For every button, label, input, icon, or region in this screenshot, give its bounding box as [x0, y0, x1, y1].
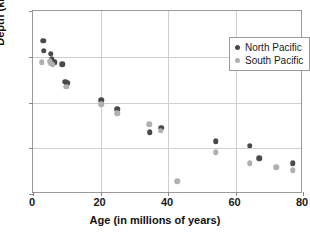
legend-marker-north-pacific	[235, 45, 240, 50]
data-point	[98, 102, 104, 108]
data-point	[175, 178, 181, 184]
x-axis-tick-label: 60	[220, 197, 250, 208]
data-point	[59, 61, 65, 67]
data-point	[256, 156, 262, 162]
data-point	[158, 128, 164, 134]
data-point	[247, 143, 253, 149]
data-point	[63, 84, 69, 90]
data-point	[115, 110, 121, 116]
scatter-chart: Depth (km) Age (in millions of years) No…	[0, 0, 310, 232]
y-axis-title: Depth (km)	[0, 0, 6, 62]
data-point	[273, 164, 279, 170]
legend-marker-south-pacific	[235, 58, 240, 63]
data-point	[41, 48, 47, 54]
gridline-horizontal	[33, 148, 301, 149]
x-axis-tick-label: 80	[287, 197, 310, 208]
data-point	[147, 129, 153, 135]
x-axis-title: Age (in millions of years)	[0, 214, 310, 226]
y-axis-tick	[29, 11, 33, 12]
data-point	[213, 139, 219, 145]
legend-label-north-pacific: North Pacific	[245, 43, 302, 53]
gridline-vertical	[168, 11, 169, 192]
y-axis-tick	[29, 57, 33, 58]
x-axis-tick-label: 0	[17, 197, 47, 208]
gridline-horizontal	[33, 103, 301, 104]
plot-area: North Pacific South Pacific	[32, 10, 302, 193]
x-axis-tick-label: 20	[85, 197, 115, 208]
y-axis-tick	[29, 148, 33, 149]
legend-item-north-pacific: North Pacific	[235, 41, 303, 54]
data-point	[40, 38, 46, 44]
chart-legend: North Pacific South Pacific	[229, 37, 310, 71]
data-point	[39, 59, 45, 65]
x-axis-tick-label: 40	[152, 197, 182, 208]
data-point	[247, 161, 253, 167]
data-point	[290, 161, 296, 167]
legend-label-south-pacific: South Pacific	[245, 56, 303, 66]
data-point	[146, 122, 152, 128]
y-axis-tick	[29, 103, 33, 104]
legend-item-south-pacific: South Pacific	[235, 54, 303, 67]
data-point	[50, 62, 56, 68]
data-point	[290, 167, 296, 173]
data-point	[213, 150, 219, 156]
